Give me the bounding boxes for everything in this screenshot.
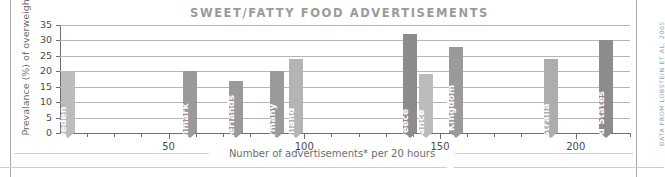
bar-netherlands[interactable]: Netherlands [229,81,243,133]
bar-finland[interactable]: Finland [289,59,303,133]
y-tick-label: 30 [22,35,52,45]
y-tick-mark [56,87,60,88]
bar-sweden[interactable]: Sweden [61,71,75,133]
x-tick-mark-minor [521,133,522,137]
y-tick-mark [56,25,60,26]
bar-label: Germany [267,103,277,150]
y-tick-label: 5 [22,113,52,123]
y-tick-label: 25 [22,51,52,61]
bar-label: France [416,109,426,144]
gridline [60,25,630,26]
bar-united-states[interactable]: United States [599,40,613,133]
x-tick-mark-minor [630,133,631,137]
bar-label: Denmark [180,103,190,150]
x-tick-mark-minor [87,133,88,137]
source-credit: DATA FROM LOBSTEIN ET AL, 2005 [658,9,665,159]
y-tick-mark [56,56,60,57]
x-tick-mark-major [576,133,577,139]
x-axis-title: Number of advertisements* per 20 hours [0,148,664,159]
y-tick-mark [56,133,60,134]
x-tick-mark-minor [494,133,495,137]
bar-label: Finland [286,107,296,146]
bar-united-kingdom[interactable]: United Kingdom [449,47,463,133]
bar-germany[interactable]: Germany [270,71,284,133]
bar-australia[interactable]: Australia [544,59,558,133]
x-tick-mark-major [304,133,305,139]
bar-label: Sweden [58,106,68,147]
y-tick-label: 35 [22,20,52,30]
bar-france[interactable]: France [419,74,433,133]
y-tick-label: 20 [22,66,52,76]
y-tick-label: 10 [22,97,52,107]
gridline [60,56,630,57]
y-tick-mark [56,40,60,41]
gridline [60,40,630,41]
y-tick-label: 0 [22,128,52,138]
x-tick-mark-minor [331,133,332,137]
y-tick-mark [56,71,60,72]
y-tick-label: 15 [22,82,52,92]
x-tick-mark-major [169,133,170,139]
y-tick-mark [56,118,60,119]
x-tick-mark-minor [250,133,251,137]
x-tick-mark-major [440,133,441,139]
bar-label: Australia [541,103,551,151]
frame-bottom-rule [0,167,664,168]
x-tick-mark-minor [467,133,468,137]
bar-label: Greece [400,109,410,146]
x-tick-mark-minor [141,133,142,137]
plot-area: 50100150200 SwedenDenmarkNetherlandsGerm… [60,25,630,133]
x-tick-mark-minor [386,133,387,137]
x-tick-mark-minor [223,133,224,137]
x-tick-mark-minor [359,133,360,137]
bar-denmark[interactable]: Denmark [183,71,197,133]
x-tick-mark-minor [114,133,115,137]
y-tick-mark [56,102,60,103]
chart-title: SWEET/FATTY FOOD ADVERTISEMENTS [190,6,480,20]
